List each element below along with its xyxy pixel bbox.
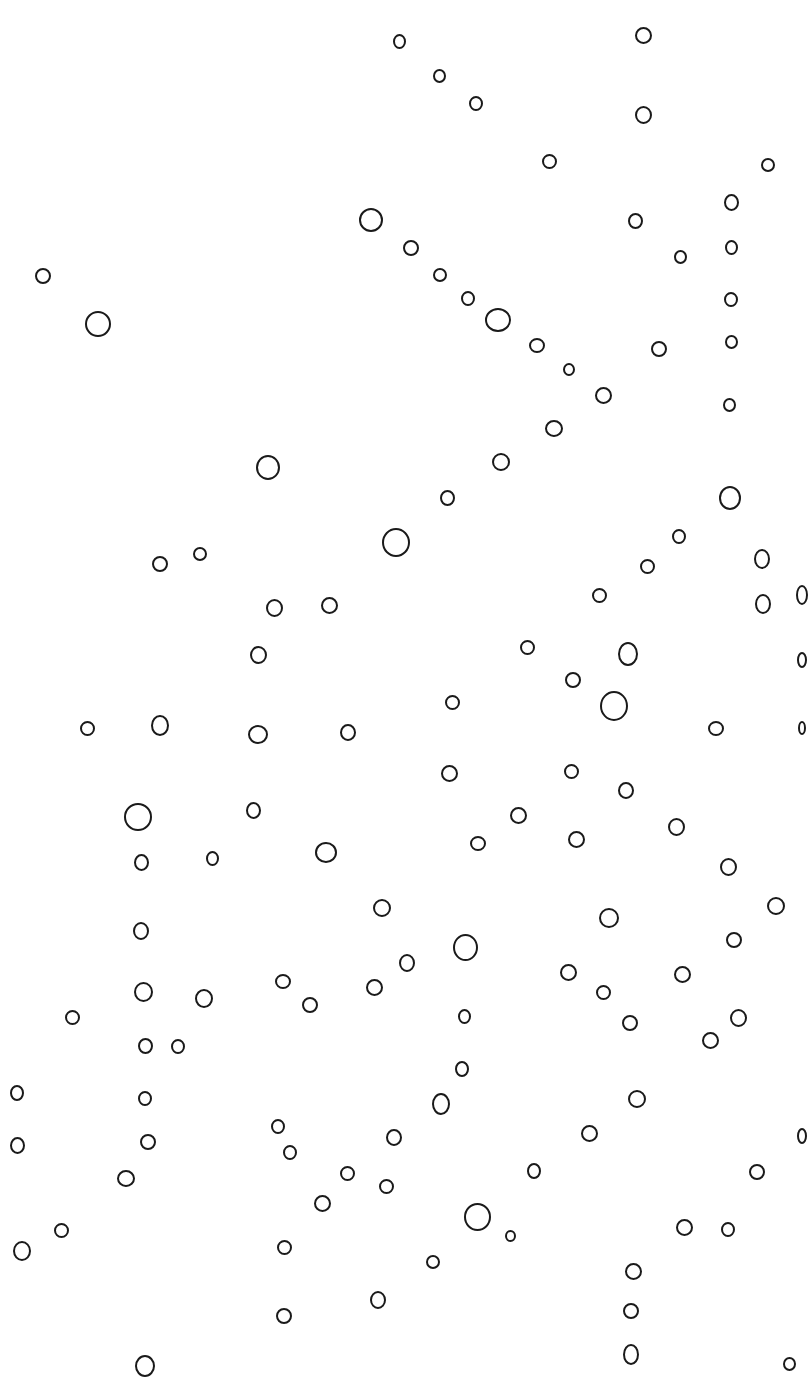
circle-mark [152, 556, 168, 572]
circle-mark [283, 1145, 297, 1160]
circle-mark [618, 782, 634, 799]
circle-mark [440, 490, 455, 506]
circle-mark [565, 672, 581, 688]
circle-mark [674, 966, 691, 983]
circle-mark [505, 1230, 516, 1242]
circle-mark [171, 1039, 185, 1054]
circle-mark [635, 106, 652, 124]
circle-mark [725, 335, 738, 349]
circle-mark [651, 341, 667, 357]
circle-mark [798, 721, 806, 735]
circle-mark [65, 1010, 80, 1025]
circle-mark [702, 1032, 719, 1049]
circle-mark [724, 292, 738, 307]
circle-mark [321, 597, 338, 614]
circle-mark [635, 27, 652, 44]
circle-mark [469, 96, 483, 111]
circle-mark [724, 194, 739, 211]
circle-mark [54, 1223, 69, 1238]
circle-mark [628, 1090, 646, 1108]
circle-mark [266, 599, 283, 617]
circle-mark [595, 387, 612, 404]
circle-mark [248, 725, 268, 744]
circle-mark [720, 858, 737, 876]
circle-mark [625, 1263, 642, 1280]
circle-mark [13, 1241, 31, 1261]
circle-mark [470, 836, 486, 851]
circle-mark [256, 455, 280, 480]
circle-mark [276, 1308, 292, 1324]
circle-mark [708, 721, 724, 736]
circle-mark [721, 1222, 735, 1237]
circle-mark [527, 1163, 541, 1179]
circle-mark [668, 818, 685, 836]
circle-mark [124, 803, 152, 831]
circle-mark [386, 1129, 402, 1146]
circle-mark [599, 908, 619, 928]
circle-mark [382, 528, 410, 557]
circle-mark [464, 1203, 491, 1231]
circle-mark [520, 640, 535, 655]
circle-mark [623, 1303, 639, 1319]
circle-mark [340, 1166, 355, 1181]
circle-mark [117, 1170, 135, 1187]
circle-mark [433, 69, 446, 83]
circle-mark [568, 831, 585, 848]
circle-mark [461, 291, 475, 306]
circle-mark [85, 311, 111, 337]
circle-mark [441, 765, 458, 782]
circle-mark [545, 420, 563, 437]
circle-mark [797, 1128, 807, 1144]
circle-mark [719, 486, 741, 510]
circle-mark [730, 1009, 747, 1027]
circle-mark [140, 1134, 156, 1150]
circle-mark [628, 213, 643, 229]
circle-mark [393, 34, 406, 49]
circle-mark [271, 1119, 285, 1134]
circle-mark [151, 715, 169, 736]
circle-mark [134, 982, 153, 1002]
circle-mark [10, 1085, 24, 1101]
circle-mark [403, 240, 419, 256]
circle-mark [618, 642, 638, 666]
circle-mark [277, 1240, 292, 1255]
circle-mark [246, 802, 261, 819]
circle-mark [749, 1164, 765, 1180]
circle-mark [510, 807, 527, 824]
circle-mark [302, 997, 318, 1013]
circle-mark [485, 308, 511, 332]
circle-mark [314, 1195, 331, 1212]
circle-mark [672, 529, 686, 544]
circle-mark [596, 985, 611, 1000]
circle-mark [193, 547, 207, 561]
circle-mark [623, 1344, 639, 1365]
circle-mark [754, 549, 770, 569]
circle-mark [250, 646, 267, 664]
circle-mark [458, 1009, 471, 1024]
circle-mark [581, 1125, 598, 1142]
circle-mark [133, 922, 149, 940]
circle-mark [433, 268, 447, 282]
circle-mark [138, 1038, 153, 1054]
circle-mark [761, 158, 775, 172]
circle-mark [723, 398, 736, 412]
circle-mark [80, 721, 95, 736]
circle-mark [340, 724, 356, 741]
circle-mark [359, 208, 383, 232]
circle-mark [445, 695, 460, 710]
circle-mark [426, 1255, 440, 1269]
circle-mark [373, 899, 391, 917]
circle-mark [10, 1137, 25, 1154]
circle-mark [640, 559, 655, 574]
circle-mark [564, 764, 579, 779]
circle-mark [455, 1061, 469, 1077]
circle-mark [796, 585, 808, 605]
circle-mark [138, 1091, 152, 1106]
circle-mark [767, 897, 785, 915]
circle-mark [674, 250, 687, 264]
circle-mark [275, 974, 291, 989]
circle-mark [195, 989, 213, 1008]
circle-mark [453, 934, 478, 961]
circle-mark [797, 652, 807, 668]
circle-mark [560, 964, 577, 981]
